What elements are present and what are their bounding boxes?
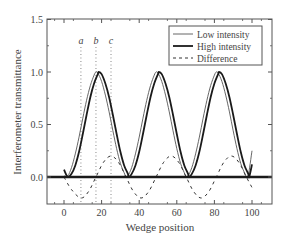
x-tick-label: 100	[245, 207, 260, 218]
legend-high-label: High intensity	[197, 42, 251, 52]
reference-label-c: c	[109, 35, 114, 46]
x-axis-label: Wedge position	[126, 221, 195, 233]
x-tick-label: 20	[97, 207, 107, 218]
reference-lines	[81, 47, 111, 204]
legend-diff-label: Difference	[197, 54, 237, 64]
reference-label-a: a	[78, 35, 83, 46]
y-axis-label: Interferometer transmittance	[11, 49, 23, 175]
x-tick-labels: 020406080100	[62, 207, 260, 218]
chart-container: abc 020406080100 0.00.51.01.5 Wedge posi…	[0, 0, 285, 247]
series-layer	[64, 72, 252, 198]
legend-low-label: Low intensity	[197, 30, 250, 40]
y-tick-label: 0.0	[31, 172, 44, 183]
x-tick-label: 80	[209, 207, 219, 218]
x-tick-label: 40	[134, 207, 144, 218]
y-tick-labels: 0.00.51.01.5	[31, 14, 44, 183]
reference-labels: abc	[78, 35, 113, 46]
y-tick-label: 1.5	[31, 14, 44, 25]
reference-label-b: b	[93, 35, 98, 46]
chart-svg: abc 020406080100 0.00.51.01.5 Wedge posi…	[0, 0, 285, 247]
x-tick-label: 0	[62, 207, 67, 218]
x-tick-label: 60	[172, 207, 182, 218]
y-tick-label: 1.0	[31, 67, 44, 78]
y-tick-label: 0.5	[31, 119, 44, 130]
legend: Low intensity High intensity Difference	[169, 26, 262, 65]
